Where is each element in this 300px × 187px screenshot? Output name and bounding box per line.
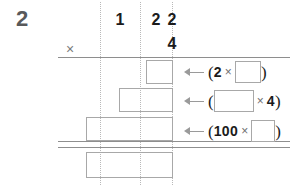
rule-below-total-top [58,147,290,148]
close-paren: ) [275,93,281,110]
column-digit-tens: 1 [107,12,133,28]
answer-box-partial-2[interactable] [119,88,173,112]
multiply-icon: × [225,66,232,78]
question-number: 2 [16,8,28,30]
answer-box-partial-3[interactable] [86,117,173,141]
answer-box-total[interactable] [86,152,173,178]
annotation-1-blank[interactable] [235,61,261,83]
rule-under-problem [58,57,290,58]
close-paren: ) [275,123,281,140]
multiply-icon: × [257,95,264,107]
annotation-2-blank[interactable] [214,90,254,112]
worksheet-canvas: 2 1 2 2 4 × ( 2 × ) ( × 4 ) [0,0,300,187]
answer-box-partial-1[interactable] [146,60,173,84]
arrow-left-icon [184,97,204,106]
multiplier-digit: 4 [147,36,197,52]
arrow-left-icon [184,68,204,77]
annotation-partial-3: ( 100 × ) [184,119,281,143]
arrow-left-icon [184,127,204,136]
annotation-2-right-term: 4 [267,94,275,108]
multiply-icon: × [241,125,248,137]
annotation-3-left-term: 100 [214,124,239,138]
sum-multiply-icon: × [66,42,74,56]
column-digit-multiplier: 2 [147,12,197,28]
annotation-partial-2: ( × 4 ) [184,89,281,113]
annotation-3-blank[interactable] [251,120,275,142]
close-paren: ) [261,64,267,81]
annotation-1-left-term: 2 [214,65,222,79]
annotation-partial-1: ( 2 × ) [184,60,267,84]
